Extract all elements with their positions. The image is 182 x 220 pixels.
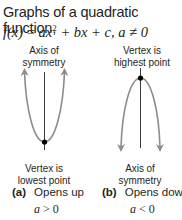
graph-a-vertex-dot xyxy=(42,139,47,144)
graph-b-parabola xyxy=(121,68,160,148)
graph-a-parabola xyxy=(25,72,65,150)
parabola-graphs xyxy=(0,0,182,220)
graph-b-vertex-dot xyxy=(138,75,143,80)
